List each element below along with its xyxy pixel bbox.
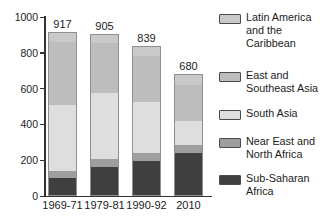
x-axis-category-label: 1979-81 (81, 199, 129, 212)
plot-area: 02004006008001000 917905839680 1969-7119… (0, 0, 220, 223)
bar-segment (175, 85, 202, 121)
y-axis-tick-label: 400 (6, 118, 38, 130)
bar-segment (175, 153, 202, 195)
y-axis-tick-label: 800 (6, 47, 38, 59)
legend-item: South Asia (219, 107, 323, 120)
legend-item: East and Southeast Asia (219, 69, 323, 95)
legend-label: Latin America and the Caribbean (246, 11, 324, 50)
legend-item: Sub-Saharan Africa (219, 172, 323, 198)
bar-segment (133, 47, 160, 57)
bar-segment (49, 178, 76, 195)
bar-segment (91, 35, 118, 43)
bar-value-label: 839 (124, 32, 169, 44)
bar-segment (133, 56, 160, 101)
bar-segment (49, 42, 76, 105)
legend-label: South Asia (246, 107, 324, 120)
bar-segment (91, 93, 118, 159)
bar-value-label: 680 (166, 60, 211, 72)
bar-segment (133, 161, 160, 195)
bar-segment (175, 121, 202, 145)
bar-2010 (174, 74, 203, 196)
y-axis-line (44, 16, 46, 196)
bar-segment (49, 105, 76, 171)
bar-1979-81 (90, 34, 119, 196)
bar-1990-92 (132, 46, 161, 196)
legend-label: Sub-Saharan Africa (246, 172, 324, 198)
bar-segment (91, 159, 118, 167)
bar-segment (133, 153, 160, 162)
legend-swatch (219, 72, 241, 82)
y-axis-tick (40, 160, 45, 161)
legend-swatch (219, 110, 241, 120)
y-axis-tick (40, 52, 45, 53)
bar-value-label: 917 (40, 18, 85, 30)
y-axis-tick-label: 1000 (6, 11, 38, 23)
legend-swatch (219, 175, 241, 185)
legend: Latin America and the CaribbeanEast and … (219, 0, 323, 223)
x-axis-category-label: 1990-92 (123, 199, 171, 212)
bar-segment (49, 33, 76, 42)
legend-label: East and Southeast Asia (246, 69, 324, 95)
bar-segment (49, 171, 76, 178)
y-axis-tick (40, 124, 45, 125)
y-axis-tick-label: 600 (6, 83, 38, 95)
y-axis-tick (40, 196, 45, 197)
y-axis-tick (40, 88, 45, 89)
bar-segment (175, 145, 202, 153)
legend-swatch (219, 14, 241, 24)
bar-segment (91, 167, 118, 195)
bar-value-label: 905 (82, 20, 127, 32)
y-axis-tick-label: 0 (6, 190, 38, 202)
bar-segment (175, 75, 202, 84)
legend-label: Near East and North Africa (246, 135, 324, 161)
x-axis-category-label: 2010 (165, 199, 213, 212)
stacked-bar-chart: 02004006008001000 917905839680 1969-7119… (0, 0, 325, 223)
bar-segment (91, 43, 118, 92)
bar-segment (133, 102, 160, 153)
y-axis-tick-label: 200 (6, 154, 38, 166)
legend-item: Near East and North Africa (219, 135, 323, 161)
legend-swatch (219, 138, 241, 148)
x-axis-category-label: 1969-71 (39, 199, 87, 212)
legend-item: Latin America and the Caribbean (219, 11, 323, 50)
bar-1969-71 (48, 32, 77, 196)
